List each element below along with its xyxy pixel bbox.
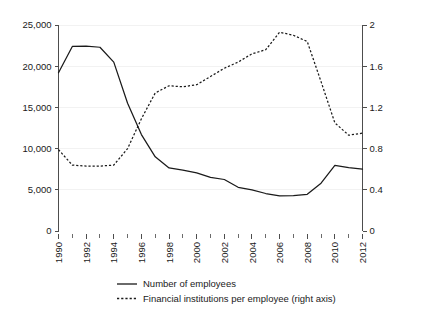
legend-label-2: Financial institutions per employee (rig… <box>143 293 336 304</box>
y-axis-left-tick-label: 15,000 <box>22 102 51 113</box>
x-axis-tick-label: 2012 <box>357 242 368 263</box>
x-axis-tick-label: 1992 <box>81 242 92 263</box>
y-axis-left-tick-label: 25,000 <box>22 19 51 30</box>
x-axis-tick-label: 2002 <box>219 242 230 263</box>
legend: Number of employeesFinancial institution… <box>117 278 336 304</box>
y-axis-left-tick-label: 5,000 <box>28 184 52 195</box>
y-axis-right-tick-label: 2 <box>370 19 375 30</box>
y-axis-left-tick-label: 0 <box>46 225 51 236</box>
x-axis-tick-label: 2006 <box>274 242 285 263</box>
chart-figure: 05,00010,00015,00020,00025,000 00.40.81.… <box>0 0 423 312</box>
x-axis-tick-label: 2010 <box>329 242 340 263</box>
y-axis-right-tick-label: 1.2 <box>370 102 383 113</box>
y-axis-right-tick-label: 0.8 <box>370 143 383 154</box>
y-axis-right-tick-label: 0 <box>370 225 375 236</box>
series-line-1 <box>59 46 363 196</box>
gridlines <box>59 25 363 190</box>
x-axis-tick-label: 2004 <box>247 242 258 263</box>
legend-label-1: Number of employees <box>143 278 236 289</box>
y-axis-left: 05,00010,00015,00020,00025,000 <box>22 19 58 236</box>
y-axis-right-tick-label: 1.6 <box>370 61 383 72</box>
x-axis-tick-label: 1994 <box>108 242 119 263</box>
x-axis-tick-label: 1990 <box>53 242 64 263</box>
x-axis: 1990199219941996199820002002200420062008… <box>53 234 368 264</box>
x-axis-tick-label: 2000 <box>191 242 202 263</box>
chart-canvas: 05,00010,00015,00020,00025,000 00.40.81.… <box>0 0 423 312</box>
x-axis-tick-label: 2008 <box>302 242 313 263</box>
y-axis-left-tick-label: 10,000 <box>22 143 51 154</box>
x-axis-tick-label: 1998 <box>164 242 175 263</box>
series-group <box>59 32 363 196</box>
y-axis-right-tick-label: 0.4 <box>370 184 383 195</box>
y-axis-right: 00.40.81.21.62 <box>363 19 383 236</box>
x-axis-tick-label: 1996 <box>136 242 147 263</box>
y-axis-left-tick-label: 20,000 <box>22 61 51 72</box>
